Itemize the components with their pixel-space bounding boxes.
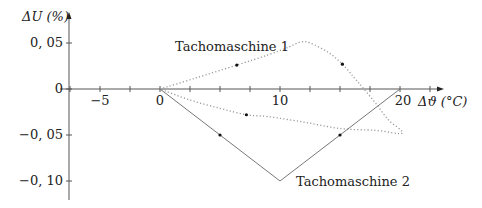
direction-arrow-icon [235,63,238,66]
y-tick-label: −0, 05 [19,127,63,142]
y-tick-label: 0 [55,81,63,96]
direction-arrow-icon [218,133,221,136]
x-axis-arrow-icon [437,87,444,92]
y-axis-label: ΔU (%) [21,9,69,24]
x-axis-label: Δϑ (°C) [417,94,467,109]
y-tick-label: 0, 05 [30,35,63,50]
y-tick-label: −0, 10 [19,173,63,188]
x-tick-label: 20 [395,93,412,108]
direction-arrow-icon [245,113,248,116]
series-label-tachomaschine-2: Tachomaschine 2 [296,174,410,189]
x-tick-label: −5 [90,93,109,108]
x-tick-label: 10 [272,93,289,108]
series-line-1 [160,42,403,134]
series-label-tachomaschine-1: Tachomaschine 1 [175,39,289,54]
direction-arrow-icon [338,133,341,136]
chart: −5 0 10 20 0, 05 0 −0, 05 −0, 10 ΔU (%) … [0,0,482,208]
x-tick-label: 0 [156,93,164,108]
series-group [160,42,403,181]
direction-arrow-icon [341,63,344,66]
